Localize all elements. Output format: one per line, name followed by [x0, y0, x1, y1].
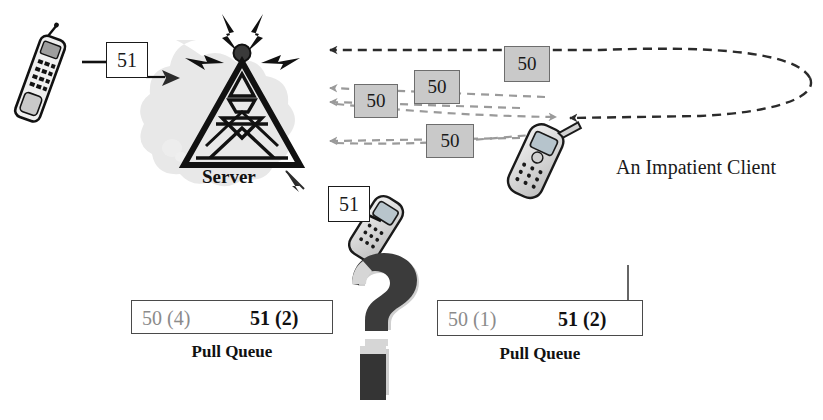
message-box-3[interactable]: 50: [504, 46, 550, 82]
queue-entry-current: 51 (2): [558, 308, 606, 331]
pull-queue-left-caption: Pull Queue: [131, 342, 333, 362]
pull-queue-right[interactable]: 50 (1) 51 (2): [437, 300, 643, 336]
server-label: Server: [202, 166, 256, 188]
question-mark-icon: [352, 253, 419, 400]
pull-queue-left[interactable]: 50 (4) 51 (2): [131, 300, 333, 334]
left-handset-icon: [13, 19, 72, 123]
client-handset-icon: [504, 105, 583, 206]
queue-entry-current: 51 (2): [250, 307, 298, 330]
request-box-lower[interactable]: 51: [328, 186, 370, 222]
message-box-4[interactable]: 50: [426, 124, 474, 158]
figure-canvas: Server An Impatient Client 51 51 50 50 5…: [0, 0, 823, 420]
message-box-2[interactable]: 50: [414, 70, 460, 104]
request-box-left[interactable]: 51: [106, 42, 148, 78]
client-label: An Impatient Client: [616, 156, 776, 179]
queue-entry-stale: 50 (1): [448, 308, 496, 331]
queue-entry-stale: 50 (4): [142, 307, 190, 330]
pull-queue-right-caption: Pull Queue: [437, 344, 643, 364]
message-box-1[interactable]: 50: [354, 84, 398, 118]
